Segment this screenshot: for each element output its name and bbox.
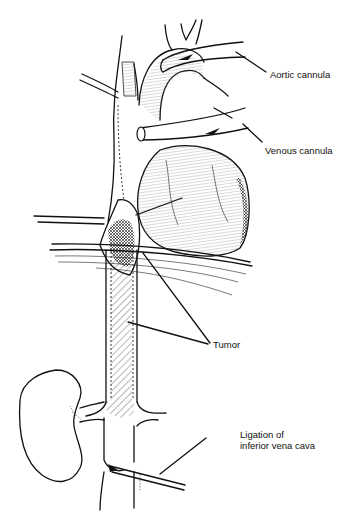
label-ligation-line1: Ligation of: [240, 429, 315, 440]
label-aortic-cannula: Aortic cannula: [270, 69, 330, 80]
svc-tube: [80, 74, 118, 98]
label-venous-cannula: Venous cannula: [265, 145, 333, 156]
kidney: [20, 370, 104, 481]
label-tumor: Tumor: [213, 339, 240, 350]
label-ligation: Ligation of inferior vena cava: [240, 429, 315, 451]
aortic-cannula-leader-line: [236, 52, 266, 72]
ligation-leader-line: [160, 438, 206, 474]
heart: [138, 146, 250, 256]
tumor-leader-lines: [128, 253, 210, 344]
label-ligation-line2: inferior vena cava: [240, 440, 315, 451]
superior-vena-cava: [108, 36, 138, 222]
ligation-clamp: [108, 438, 206, 490]
great-vessels: [165, 20, 202, 50]
venous-cannula-leader-line: [243, 124, 262, 142]
inferior-vena-cava: [86, 250, 166, 510]
